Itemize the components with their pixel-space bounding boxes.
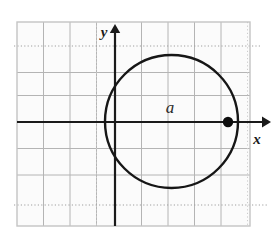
- region-label-a: a: [166, 98, 175, 117]
- marked-point-group: [223, 117, 233, 127]
- coordinate-grid-figure: Circle tangent to the y-axis at the orig…: [0, 0, 274, 238]
- marked-point-dot: [223, 117, 233, 127]
- grid-panel: [17, 22, 250, 226]
- figure-container: Circle tangent to the y-axis at the orig…: [0, 0, 274, 238]
- y-axis-label: y: [99, 24, 108, 40]
- x-axis-label: x: [252, 131, 261, 147]
